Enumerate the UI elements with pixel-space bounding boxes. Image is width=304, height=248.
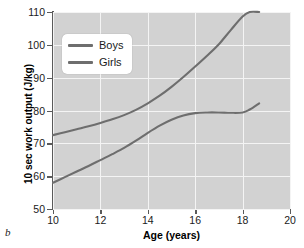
legend-swatch-boys <box>68 44 93 46</box>
x-tick-label: 20 <box>284 215 296 226</box>
x-tick-label: 14 <box>142 215 154 226</box>
series-line-girls <box>53 103 259 182</box>
plot-area: Boys Girls <box>53 12 290 209</box>
legend-swatch-girls <box>68 61 93 63</box>
x-tick-label: 18 <box>237 215 249 226</box>
legend-item-boys: Boys <box>68 39 123 52</box>
gridline-horizontal <box>53 209 290 210</box>
x-tick-label: 16 <box>189 215 201 226</box>
figure-panel: 5060708090100110 101214161820 Boys Girls… <box>0 0 304 248</box>
y-tick-label: 110 <box>28 6 45 18</box>
chart-legend: Boys Girls <box>62 34 132 74</box>
y-tick-label: 90 <box>33 72 45 84</box>
y-tick-label: 60 <box>33 170 45 182</box>
x-axis-title: Age (years) <box>53 229 290 241</box>
y-tick-label: 80 <box>33 105 45 117</box>
gridline-vertical <box>290 12 291 209</box>
x-tick-label: 12 <box>95 215 107 226</box>
legend-label-boys: Boys <box>99 40 123 51</box>
y-axis-title: 10 sec work output (J/kg) <box>23 34 34 214</box>
legend-label-girls: Girls <box>99 57 122 68</box>
x-tick-label: 10 <box>47 215 59 226</box>
legend-item-girls: Girls <box>68 56 123 69</box>
y-tick-label: 70 <box>33 137 45 149</box>
panel-letter: b <box>5 226 11 238</box>
y-tick-label: 50 <box>33 203 45 215</box>
